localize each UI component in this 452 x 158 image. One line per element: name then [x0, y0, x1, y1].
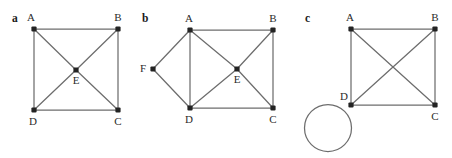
node-label-b-C: C: [269, 113, 276, 125]
node-label-c-D: D: [340, 90, 348, 102]
node-label-a-C: C: [114, 115, 121, 127]
edge-b-BE: [237, 30, 273, 69]
self-loop-c-D: [305, 105, 352, 152]
node-label-a-A: A: [27, 11, 35, 23]
svg-content-group: aABCDEbABCDEFcABCD: [12, 11, 439, 152]
node-b-E[interactable]: [234, 66, 239, 71]
node-c-A[interactable]: [348, 26, 353, 31]
node-a-A[interactable]: [31, 26, 36, 31]
panel-a: aABCDE: [12, 11, 122, 127]
edge-b-DF: [153, 69, 190, 108]
node-label-c-B: B: [431, 11, 438, 23]
panel-letter-c: c: [305, 12, 310, 24]
node-a-E[interactable]: [73, 67, 78, 72]
node-b-F[interactable]: [150, 66, 155, 71]
node-label-a-B: B: [114, 11, 121, 23]
node-b-C[interactable]: [270, 105, 275, 110]
panel-letter-b: b: [142, 12, 148, 24]
node-a-C[interactable]: [115, 107, 120, 112]
node-label-b-E: E: [234, 73, 241, 85]
node-label-c-A: A: [346, 11, 354, 23]
panel-c: cABCD: [305, 11, 439, 152]
node-c-B[interactable]: [432, 26, 437, 31]
node-b-D[interactable]: [187, 105, 192, 110]
node-label-a-E: E: [73, 74, 80, 86]
edge-b-AE: [190, 30, 237, 69]
node-label-b-B: B: [269, 12, 276, 24]
node-label-b-D: D: [185, 113, 193, 125]
node-c-C[interactable]: [432, 102, 437, 107]
graph-figure-svg: aABCDEbABCDEFcABCD: [0, 0, 452, 158]
node-a-D[interactable]: [31, 107, 36, 112]
panel-b: bABCDEF: [140, 12, 277, 125]
node-label-c-C: C: [431, 110, 438, 122]
edge-a-CE: [76, 70, 118, 110]
node-label-b-A: A: [185, 12, 193, 24]
node-label-a-D: D: [29, 115, 37, 127]
figure-container: aABCDEbABCDEFcABCD: [0, 0, 452, 158]
edge-a-BE: [76, 29, 118, 70]
edge-b-AF: [153, 30, 190, 69]
node-a-B[interactable]: [115, 26, 120, 31]
edge-a-AE: [34, 29, 76, 70]
edge-b-CE: [237, 69, 273, 108]
panel-letter-a: a: [12, 12, 18, 24]
node-c-D[interactable]: [348, 102, 353, 107]
edge-b-DE: [190, 69, 237, 108]
node-b-A[interactable]: [187, 27, 192, 32]
edge-a-DE: [34, 70, 76, 110]
node-b-B[interactable]: [270, 27, 275, 32]
node-label-b-F: F: [140, 62, 146, 74]
